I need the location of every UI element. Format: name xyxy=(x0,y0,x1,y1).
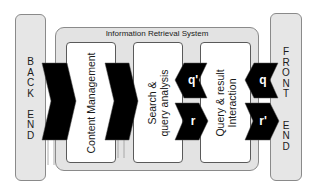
back-end-label: B A C K E N D xyxy=(16,57,45,141)
content-management-label: Content Management xyxy=(85,52,97,153)
back-end-panel: B A C K E N D xyxy=(15,14,46,181)
query-result-interaction-label: Query & result Interaction xyxy=(214,69,238,136)
front-end-panel: F R O N T E N D xyxy=(270,13,302,181)
search-query-analysis-label: Search & query analysis xyxy=(146,69,170,136)
front-end-label: F R O N T E N D xyxy=(271,47,301,152)
r-prime-label: r' xyxy=(253,115,273,127)
content-management-box: Content Management xyxy=(66,42,116,163)
q-prime-label: q' xyxy=(183,74,203,86)
system-title: Information Retrieval System xyxy=(56,29,258,38)
r-label: r xyxy=(183,115,203,127)
search-query-analysis-box: Search & query analysis xyxy=(133,42,183,163)
query-result-interaction-box: Query & result Interaction xyxy=(200,42,251,163)
q-label: q xyxy=(253,74,273,86)
